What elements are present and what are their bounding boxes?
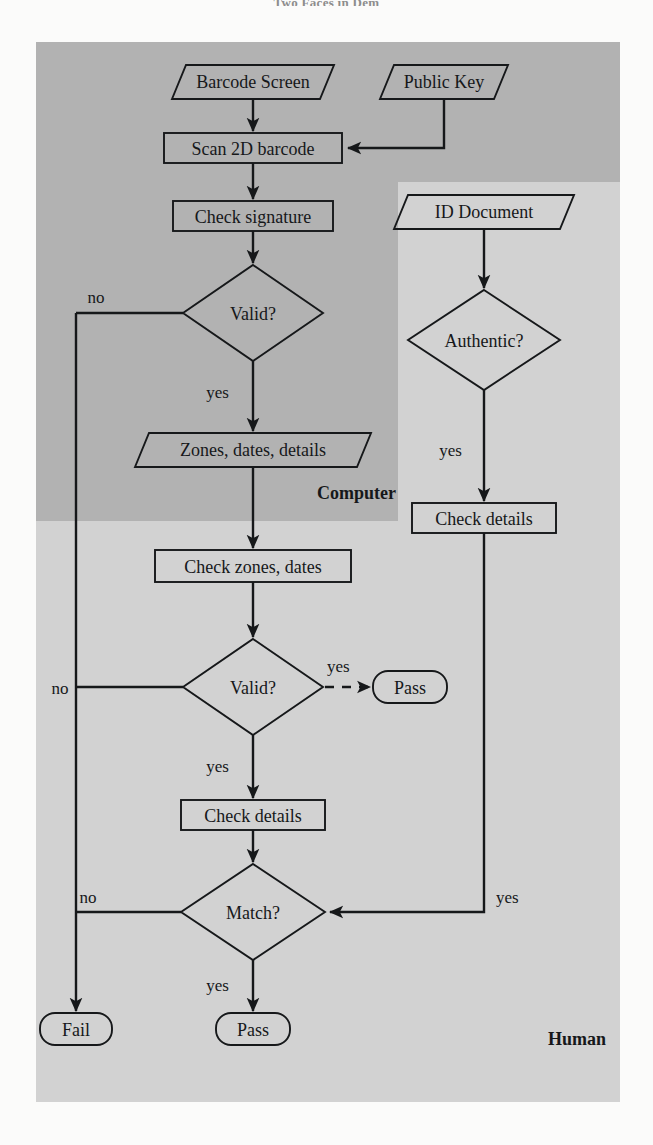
node-public-key-label: Public Key <box>404 72 485 92</box>
node-zones-dates-details-label: Zones, dates, details <box>180 440 326 460</box>
flowchart-canvas: Barcode Screen Public Key Scan 2D barcod… <box>0 0 653 1145</box>
edge-label-yes-pass-early: yes <box>327 657 350 676</box>
node-check-details-right-label: Check details <box>435 509 532 529</box>
lane-label-computer: Computer <box>317 483 396 503</box>
node-id-document-label: ID Document <box>435 202 533 222</box>
edge-label-yes-valid-zones: yes <box>206 757 229 776</box>
lane-label-human: Human <box>548 1029 606 1049</box>
edge-label-yes-signature: yes <box>206 383 229 402</box>
node-check-zones-dates-label: Check zones, dates <box>184 557 321 577</box>
edge-label-no-match: no <box>80 888 97 907</box>
node-scan-2d-barcode-label: Scan 2D barcode <box>192 139 315 159</box>
flowchart-page: Two Faces in Dem <box>0 0 653 1145</box>
edge-label-yes-authentic: yes <box>439 441 462 460</box>
node-check-signature-label: Check signature <box>195 207 311 227</box>
node-fail-label: Fail <box>62 1020 90 1040</box>
edge-label-yes-final: yes <box>206 976 229 995</box>
node-valid-signature-label: Valid? <box>230 304 276 324</box>
edge-label-yes-match-right: yes <box>496 888 519 907</box>
edge-label-no-signature: no <box>88 288 105 307</box>
node-pass-early-label: Pass <box>394 678 426 698</box>
node-barcode-screen-label: Barcode Screen <box>196 72 309 92</box>
node-check-details-left-label: Check details <box>204 806 301 826</box>
node-valid-zones-label: Valid? <box>230 678 276 698</box>
node-pass-final-label: Pass <box>237 1020 269 1040</box>
edge-label-no-valid-zones: no <box>52 679 69 698</box>
node-match-label: Match? <box>226 903 280 923</box>
node-authentic-label: Authentic? <box>445 331 524 351</box>
